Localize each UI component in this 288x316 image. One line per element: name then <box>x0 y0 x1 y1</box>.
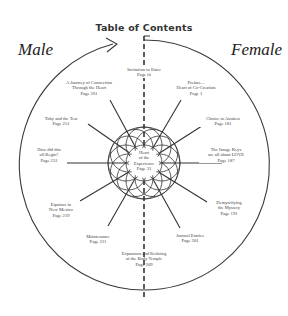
male-label: Male <box>18 40 53 60</box>
toc-entry-image-keys[interactable]: The Image Keys are all about LOVE Page 1… <box>199 147 253 163</box>
toc-entry-invitation[interactable]: Invitation to Enter Page iii <box>118 67 170 78</box>
toc-entry-choice[interactable]: Choice to Awaken Page 181 <box>198 116 248 127</box>
toc-entry-maintenance[interactable]: Maintenance Page 211 <box>78 234 118 245</box>
center-entry[interactable]: Heart of the Experience Page 31 <box>124 150 164 172</box>
toc-entry-expansion[interactable]: Expansion and Refining of the Body Templ… <box>112 251 176 267</box>
page-title: Table of Contents <box>0 22 288 33</box>
toc-entry-preface[interactable]: Preface... Heart of Co-Creation Page 1 <box>168 80 224 96</box>
toc-entry-how-begin[interactable]: How did this all Begin? Page 231 <box>32 147 66 163</box>
toc-entry-toby[interactable]: Toby and the Test Page 251 <box>38 116 84 127</box>
toc-entry-equinox[interactable]: Equinox in New Mexico Page 219 <box>43 202 79 218</box>
female-label: Female <box>231 40 282 60</box>
toc-entry-journey[interactable]: A Journey of Connection Through the Hear… <box>56 80 122 96</box>
toc-entry-demystifying[interactable]: Demystifying the Mystery Page 191 <box>208 200 250 216</box>
toc-entry-journal[interactable]: Journal Entries Page 201 <box>168 233 212 244</box>
